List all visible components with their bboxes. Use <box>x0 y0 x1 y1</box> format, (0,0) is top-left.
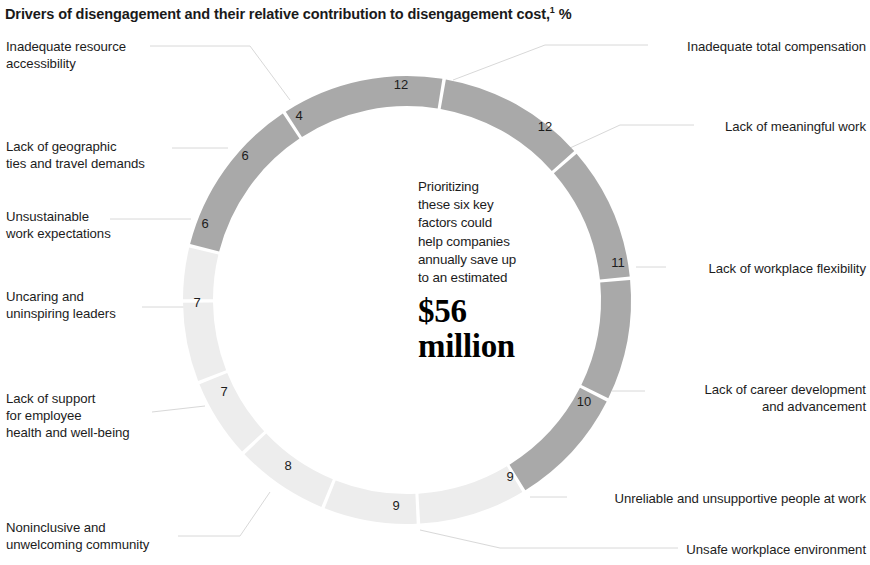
donut-segment-lack-of-geographic-ties-and-travel-demands[interactable] <box>183 302 226 381</box>
leader-line-inadequate-total-compensation <box>453 45 648 80</box>
callout-label-lack-of-geographic-ties-and-travel-demands: Lack of geographic ties and travel deman… <box>6 138 145 172</box>
leader-line-noninclusive-and-unwelcoming-community <box>178 492 270 536</box>
callout-label-lack-of-support-for-employee-health-and-well-being: Lack of support for employee health and … <box>6 390 130 441</box>
leader-line-lack-of-support-for-employee-health-and-well-being <box>152 406 205 412</box>
leader-line-lack-of-meaningful-work <box>570 125 694 148</box>
center-annotation: Prioritizing these six key factors could… <box>418 178 590 364</box>
segment-value-unsustainable-work-expectations: 6 <box>201 216 208 231</box>
segment-value-inadequate-total-compensation: 12 <box>394 77 408 92</box>
segment-value-noninclusive-and-unwelcoming-community: 8 <box>284 458 291 473</box>
donut-segment-lack-of-support-for-employee-health-and-well-being[interactable] <box>325 480 417 524</box>
leader-line-inadequate-resource-accessibility <box>150 46 290 100</box>
donut-segment-lack-of-workplace-flexibility[interactable] <box>441 79 575 171</box>
donut-segment-lack-of-meaningful-work[interactable] <box>286 76 443 137</box>
segment-value-lack-of-meaningful-work: 12 <box>538 119 552 134</box>
callout-label-lack-of-meaningful-work: Lack of meaningful work <box>725 118 866 135</box>
callout-label-noninclusive-and-unwelcoming-community: Noninclusive and unwelcoming community <box>6 519 149 553</box>
callout-label-inadequate-total-compensation: Inadequate total compensation <box>687 38 866 55</box>
segment-value-unsafe-workplace-environment: 9 <box>392 498 399 513</box>
callout-label-lack-of-career-development-and-advancement: Lack of career development and advanceme… <box>705 381 866 415</box>
callout-label-lack-of-workplace-flexibility: Lack of workplace flexibility <box>708 260 866 277</box>
segment-value-unreliable-and-unsupportive-people-at-work: 9 <box>506 469 513 484</box>
callout-label-uncaring-and-uninspiring-leaders: Uncaring and uninspiring leaders <box>6 288 116 322</box>
callout-label-unsustainable-work-expectations: Unsustainable work expectations <box>6 208 111 242</box>
center-amount: $56 million <box>418 294 590 364</box>
segment-value-lack-of-workplace-flexibility: 11 <box>611 255 625 270</box>
donut-segment-unsafe-workplace-environment[interactable] <box>510 388 607 490</box>
callout-label-inadequate-resource-accessibility: Inadequate resource accessibility <box>6 38 126 72</box>
callout-label-unsafe-workplace-environment: Unsafe workplace environment <box>686 541 866 558</box>
donut-segment-inadequate-resource-accessibility[interactable] <box>183 248 218 300</box>
center-paragraph: Prioritizing these six key factors could… <box>418 178 590 287</box>
segment-value-lack-of-career-development-and-advancement: 10 <box>577 394 591 409</box>
segment-value-lack-of-geographic-ties-and-travel-demands: 6 <box>241 148 248 163</box>
segment-value-lack-of-support-for-employee-health-and-well-being: 7 <box>220 384 227 399</box>
leader-line-unsafe-workplace-environment <box>420 530 678 548</box>
callout-label-unreliable-and-unsupportive-people-at-work: Unreliable and unsupportive people at wo… <box>614 490 866 507</box>
donut-segment-unsustainable-work-expectations[interactable] <box>199 373 264 452</box>
segment-value-inadequate-resource-accessibility: 4 <box>295 108 302 123</box>
segment-value-uncaring-and-uninspiring-leaders: 7 <box>193 295 200 310</box>
